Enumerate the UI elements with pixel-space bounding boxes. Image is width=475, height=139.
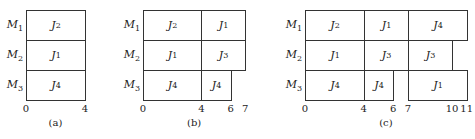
machine-label-b-3: M3 (118, 78, 140, 93)
job-block: J3 (201, 40, 246, 71)
axis-tick-label: 4 (361, 103, 367, 114)
axis-tick-label: 4 (82, 103, 88, 114)
axis-tick-label: 4 (198, 103, 204, 114)
panel-caption-c: (c) (379, 117, 392, 128)
job-block: J2 (143, 10, 202, 41)
job-block: J4 (364, 70, 394, 101)
job-block: J3 (364, 40, 409, 71)
job-block: J3 (408, 40, 453, 71)
job-block: J1 (201, 10, 246, 41)
job-block: J2 (26, 10, 86, 41)
job-block: J1 (408, 70, 468, 101)
machine-label-c-3: M3 (280, 78, 302, 93)
job-block: J2 (305, 10, 365, 41)
job-block: J4 (201, 70, 232, 101)
axis-tick-label: 11 (460, 103, 473, 114)
axis-tick-label: 0 (140, 103, 146, 114)
job-block: J4 (143, 70, 202, 101)
machine-label-a-1: M1 (1, 18, 23, 33)
axis-tick-label: 7 (405, 103, 411, 114)
machine-label-c-2: M2 (280, 48, 302, 63)
axis-tick-label: 10 (446, 103, 459, 114)
job-block: J1 (364, 10, 409, 41)
job-block: J1 (26, 40, 86, 71)
job-block: J1 (143, 40, 202, 71)
machine-label-b-1: M1 (118, 18, 140, 33)
machine-label-a-3: M3 (1, 78, 23, 93)
job-block: J4 (26, 70, 86, 101)
axis-tick-label: 6 (390, 103, 396, 114)
axis-tick-label: 7 (242, 103, 248, 114)
machine-label-b-2: M2 (118, 48, 140, 63)
machine-label-a-2: M2 (1, 48, 23, 63)
axis-tick-label: 0 (23, 103, 29, 114)
job-block: J1 (305, 40, 365, 71)
axis-tick-label: 6 (227, 103, 233, 114)
axis-tick-label: 0 (302, 103, 308, 114)
panel-caption-b: (b) (187, 117, 201, 128)
job-block: J4 (305, 70, 365, 101)
panel-caption-a: (a) (49, 117, 63, 128)
job-block: J4 (408, 10, 468, 41)
machine-label-c-1: M1 (280, 18, 302, 33)
